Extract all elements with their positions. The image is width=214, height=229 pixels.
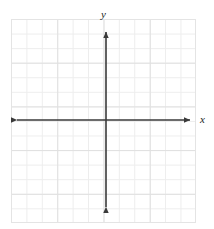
coordinate-grid-figure: y x [0,0,214,229]
x-axis-label: x [200,114,205,125]
axes-layer [0,0,214,229]
y-axis-label: y [101,9,106,20]
